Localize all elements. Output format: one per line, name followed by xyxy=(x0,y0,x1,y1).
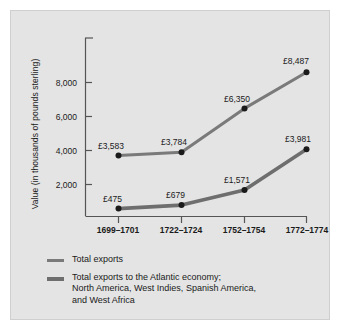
legend-swatch-total-exports-icon xyxy=(47,259,64,262)
legend-item-atlantic: Total exports to the Atlantic economy; N… xyxy=(47,272,327,307)
chart-area: Value (in thousands of pounds sterling) … xyxy=(11,11,331,321)
series-atlantic-point-1 xyxy=(179,202,185,208)
chart-legend: Total exports Total exports to the Atlan… xyxy=(47,254,327,312)
legend-label-atlantic-line3: and West Africa xyxy=(72,295,135,305)
legend-label-atlantic-line1: Total exports to the Atlantic economy; xyxy=(72,272,221,282)
data-label-atlantic-2: £1,571 xyxy=(224,175,250,185)
series-atlantic-point-0 xyxy=(116,206,122,212)
series-atlantic-point-3 xyxy=(304,146,310,152)
figure-root: Value (in thousands of pounds sterling) … xyxy=(0,0,346,335)
data-label-total-exports-3: £8,487 xyxy=(283,56,309,66)
series-total-exports-point-3 xyxy=(304,69,310,75)
series-total-exports-point-2 xyxy=(242,105,248,111)
legend-label-total-exports: Total exports xyxy=(72,254,123,266)
series-total-exports-point-0 xyxy=(116,153,122,159)
data-label-total-exports-2: £6,350 xyxy=(224,94,250,104)
series-atlantic-point-2 xyxy=(242,187,248,193)
data-label-total-exports-0: £3,583 xyxy=(98,141,124,151)
data-label-total-exports-1: £3,784 xyxy=(161,137,187,147)
data-label-atlantic-1: £679 xyxy=(166,190,185,200)
data-label-atlantic-3: £3,981 xyxy=(285,134,311,144)
chart-panel: Value (in thousands of pounds sterling) … xyxy=(10,10,330,320)
series-atlantic-line xyxy=(119,149,307,208)
legend-label-atlantic-line2: North America, West Indies, Spanish Amer… xyxy=(72,283,256,293)
series-total-exports-line xyxy=(119,72,307,155)
legend-item-total-exports: Total exports xyxy=(47,254,327,266)
series-total-exports-point-1 xyxy=(179,149,185,155)
x-tick-label-3: 1772–1774 xyxy=(270,225,344,235)
data-label-atlantic-0: £475 xyxy=(103,194,122,204)
legend-label-atlantic: Total exports to the Atlantic economy; N… xyxy=(72,272,256,307)
legend-swatch-atlantic-icon xyxy=(47,277,64,281)
